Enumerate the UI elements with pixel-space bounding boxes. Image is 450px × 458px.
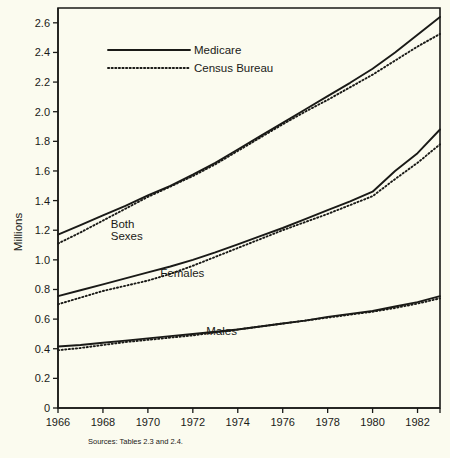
series-annotation: Sexes	[111, 230, 143, 242]
chart-legend: MedicareCensus Bureau	[108, 44, 273, 74]
y-tick-label: 1.6	[35, 165, 50, 177]
y-tick-label: 0.8	[35, 283, 50, 295]
legend-label: Census Bureau	[194, 62, 273, 74]
x-tick-label: 1976	[270, 416, 294, 428]
x-tick-label: 1980	[360, 416, 384, 428]
y-tick-label: 0.2	[35, 372, 50, 384]
y-tick-label: 0	[44, 402, 50, 414]
x-tick-label: 1970	[136, 416, 160, 428]
y-axis-tick-labels: 00.20.40.60.81.01.21.41.61.82.02.22.42.6	[35, 17, 50, 414]
y-tick-label: 0.4	[35, 343, 50, 355]
y-tick-label: 1.8	[35, 135, 50, 147]
x-axis-tick-labels: 196619681970197219741976197819801982	[46, 416, 430, 428]
y-tick-label: 2.6	[35, 17, 50, 29]
x-tick-label: 1966	[46, 416, 70, 428]
line-chart: 00.20.40.60.81.01.21.41.61.82.02.22.42.6…	[0, 0, 450, 458]
y-tick-label: 1.0	[35, 254, 50, 266]
x-tick-label: 1982	[405, 416, 429, 428]
chart-figure: 00.20.40.60.81.01.21.41.61.82.02.22.42.6…	[0, 0, 450, 458]
y-tick-label: 2.4	[35, 46, 50, 58]
y-tick-label: 0.6	[35, 313, 50, 325]
series-annotation: Males	[206, 325, 237, 337]
series-line	[58, 296, 440, 346]
y-tick-label: 2.0	[35, 106, 50, 118]
series-annotation: Both	[111, 218, 135, 230]
y-tick-label: 2.2	[35, 76, 50, 88]
y-tick-label: 1.2	[35, 224, 50, 236]
y-tick-label: 1.4	[35, 195, 50, 207]
series-annotation: Females	[160, 267, 204, 279]
series-line	[58, 129, 440, 296]
x-tick-label: 1974	[226, 416, 250, 428]
x-tick-label: 1972	[181, 416, 205, 428]
x-tick-label: 1968	[91, 416, 115, 428]
y-axis-title: Millions	[12, 213, 24, 252]
legend-label: Medicare	[194, 44, 241, 56]
x-tick-label: 1978	[315, 416, 339, 428]
source-note: Sources: Tables 2.3 and 2.4.	[88, 437, 183, 446]
